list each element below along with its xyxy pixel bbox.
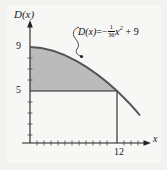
shaded-region (30, 47, 117, 91)
y-axis-arrow-icon (27, 20, 33, 28)
fraction-denominator: 36 (108, 31, 115, 39)
equation-fraction: 136 (108, 24, 115, 39)
equation-function-name: D(x) (78, 26, 96, 37)
callout-endpoint-dot (80, 55, 83, 58)
equation-annotation: D(x)=−136x2 + 9 (78, 24, 139, 39)
y-tick-label-5: 5 (16, 84, 21, 95)
fraction-numerator: 1 (108, 24, 115, 31)
y-tick-label-9: 9 (16, 40, 21, 51)
x-tick-label-12: 12 (114, 146, 124, 157)
x-axis-title: x (153, 133, 157, 144)
equation-minus: − (102, 26, 108, 37)
function-graph-figure: D(x) x 9 5 12 D(x)=−136x2 + 9 (0, 0, 167, 170)
equation-constant: + 9 (126, 26, 139, 37)
y-axis-title: D(x) (14, 8, 34, 20)
equation-exponent: 2 (120, 24, 124, 32)
x-axis-arrow-icon (144, 140, 152, 146)
